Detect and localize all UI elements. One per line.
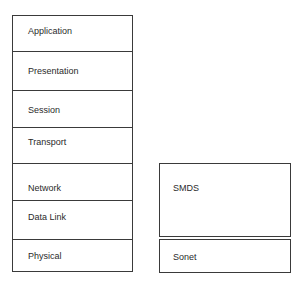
layer-label: Transport — [28, 137, 66, 147]
layer-presentation: Presentation — [13, 51, 132, 90]
layer-label: Session — [28, 105, 60, 115]
layer-label: Network — [28, 183, 61, 193]
layer-network: Network — [13, 163, 132, 200]
smds-label: SMDS — [173, 183, 199, 193]
layer-label: Data Link — [28, 212, 66, 222]
layer-application: Application — [13, 16, 132, 51]
layer-data-link: Data Link — [13, 200, 132, 239]
osi-layer-stack: Application Presentation Session Transpo… — [12, 15, 133, 272]
sonet-label: Sonet — [173, 252, 197, 262]
sonet-box: Sonet — [159, 239, 291, 273]
layer-label: Presentation — [28, 66, 79, 76]
layer-label: Physical — [28, 251, 62, 261]
layer-session: Session — [13, 90, 132, 127]
smds-box: SMDS — [159, 163, 291, 237]
layer-label: Application — [28, 26, 72, 36]
layer-transport: Transport — [13, 127, 132, 163]
layer-physical: Physical — [13, 239, 132, 273]
